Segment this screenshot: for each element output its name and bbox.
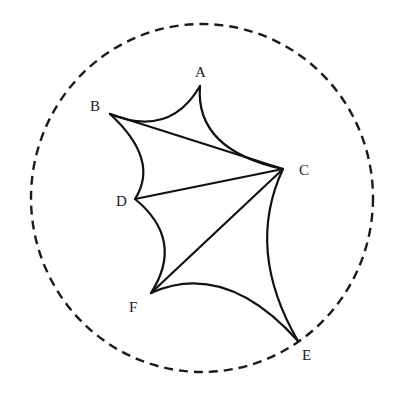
point-label-d: D <box>116 193 127 209</box>
straight-edges <box>110 114 283 293</box>
curved-edges <box>110 86 298 341</box>
point-label-c: C <box>299 162 309 178</box>
point-label-e: E <box>302 347 311 363</box>
point-label-b: B <box>90 98 100 114</box>
curved-edge-df <box>135 199 165 293</box>
curved-edge-bd <box>110 114 143 199</box>
point-label-f: F <box>129 299 137 315</box>
geometry-diagram: ABCDFE <box>0 0 397 394</box>
segment-fc <box>151 169 283 293</box>
point-label-a: A <box>195 64 206 80</box>
segment-dc <box>135 169 283 199</box>
segment-bc <box>110 114 283 169</box>
curved-edge-ba <box>110 86 200 122</box>
